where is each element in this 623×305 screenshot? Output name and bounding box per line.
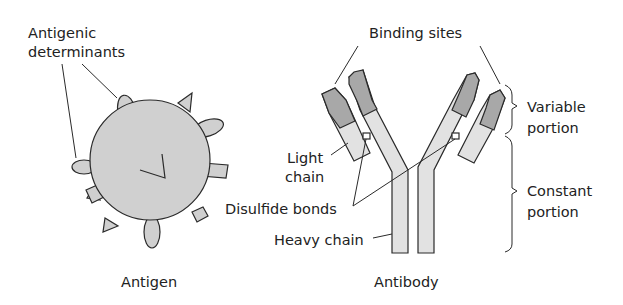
- antigen-antibody-diagram: Antigenic determinants Antigen Binding s…: [0, 0, 623, 305]
- right-disulfide-bond: [452, 133, 459, 139]
- heavy-chain-label: Heavy chain: [274, 232, 364, 248]
- variable-portion-bracket: [505, 85, 517, 134]
- antibody: [322, 70, 505, 253]
- light-chain-label-line2: chain: [285, 169, 324, 185]
- left-light-variable: [322, 88, 355, 128]
- left-heavy-variable: [349, 70, 377, 116]
- binding-site-leader-right: [480, 46, 500, 84]
- disulfide-bonds-label: Disulfide bonds: [225, 201, 337, 217]
- left-disulfide-bond: [363, 133, 370, 139]
- variable-label-line1: Variable: [527, 99, 586, 115]
- antibody-caption: Antibody: [374, 274, 439, 290]
- determinant-block-bottom-right: [192, 207, 208, 222]
- light-chain-leader: [331, 143, 348, 155]
- variable-label-line2: portion: [527, 120, 579, 136]
- constant-label-line2: portion: [527, 204, 579, 220]
- determinant-oval-bottom: [144, 216, 160, 248]
- constant-label-line1: Constant: [527, 183, 593, 199]
- antigen: [72, 93, 228, 248]
- antigenic-label-line1: Antigenic: [28, 25, 96, 41]
- antigenic-label-line2: determinants: [28, 44, 125, 60]
- heavy-chain-leader: [373, 234, 392, 238]
- binding-sites-label: Binding sites: [369, 25, 462, 41]
- antigen-body: [90, 100, 210, 220]
- antigen-caption: Antigen: [121, 274, 177, 290]
- constant-portion-bracket: [505, 136, 517, 252]
- light-chain-label-line1: Light: [287, 150, 324, 166]
- determinant-spike-bottom-left: [103, 218, 118, 232]
